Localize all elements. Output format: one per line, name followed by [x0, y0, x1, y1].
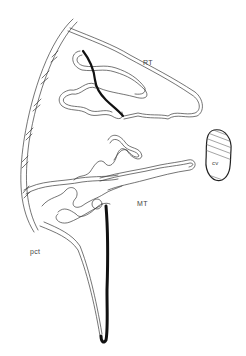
funnel-left-inner	[44, 222, 102, 334]
rt-upper-band-inner	[70, 28, 202, 119]
mt-convolution-upper-inner	[110, 139, 139, 160]
diagram-canvas	[0, 0, 246, 356]
mt-convolution-lower-3	[56, 206, 100, 223]
label-cv: cv	[212, 160, 219, 166]
label-pct: pct	[30, 248, 40, 255]
cross-band-inner	[26, 179, 118, 194]
branch-notch	[41, 71, 49, 84]
label-rt: RT	[143, 59, 153, 66]
outer-boundary-line	[21, 19, 73, 232]
mt-thick-tail	[101, 206, 108, 342]
rt-upper-band	[68, 31, 199, 116]
mt-right-strand	[100, 160, 195, 190]
mt-convolution-upper	[74, 135, 142, 180]
label-mt: MT	[137, 200, 148, 207]
cv-region	[200, 125, 240, 186]
rt-lower-loop	[59, 83, 122, 118]
